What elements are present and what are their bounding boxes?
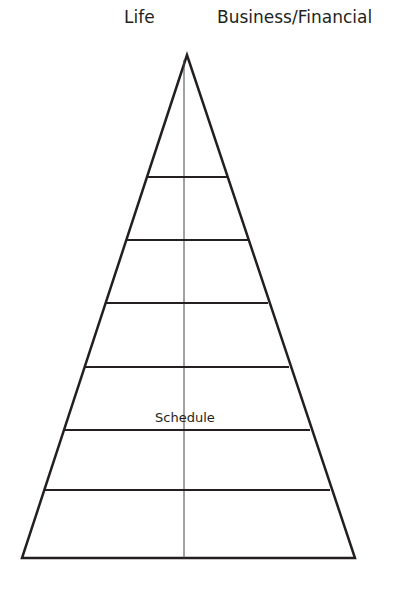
schedule-label: Schedule bbox=[155, 410, 215, 425]
tier-lines bbox=[44, 177, 330, 490]
pyramid-diagram bbox=[0, 0, 394, 590]
business-financial-label: Business/Financial bbox=[217, 7, 372, 27]
pyramid-outline bbox=[22, 55, 355, 558]
life-label: Life bbox=[124, 7, 155, 27]
